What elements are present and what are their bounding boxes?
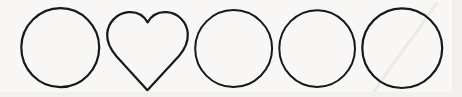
- drawing-canvas: Circle Heart Circle Circle Circle circle…: [0, 0, 462, 97]
- paper-background: [0, 0, 462, 97]
- paper-edge-shade: [452, 0, 462, 97]
- paper-bottom-shade: [0, 92, 462, 97]
- shape-row-drawing: [0, 0, 462, 97]
